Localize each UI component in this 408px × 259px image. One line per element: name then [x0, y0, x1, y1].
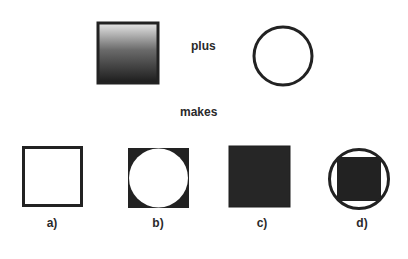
makes-label: makes: [180, 105, 217, 119]
result-c-label: c): [242, 216, 282, 230]
result-d-label: d): [342, 216, 382, 230]
result-d-circle-with-square: [330, 150, 389, 209]
operator-plus-label: plus: [191, 39, 216, 53]
result-a-label: a): [32, 216, 72, 230]
result-b-label: b): [138, 216, 178, 230]
result-b-square-with-circle-cutout: [128, 148, 189, 208]
result-a-hollow-square: [24, 148, 82, 206]
destination-circle: [254, 27, 312, 85]
source-gradient-square: [98, 23, 158, 83]
result-c-solid-square: [229, 146, 290, 207]
